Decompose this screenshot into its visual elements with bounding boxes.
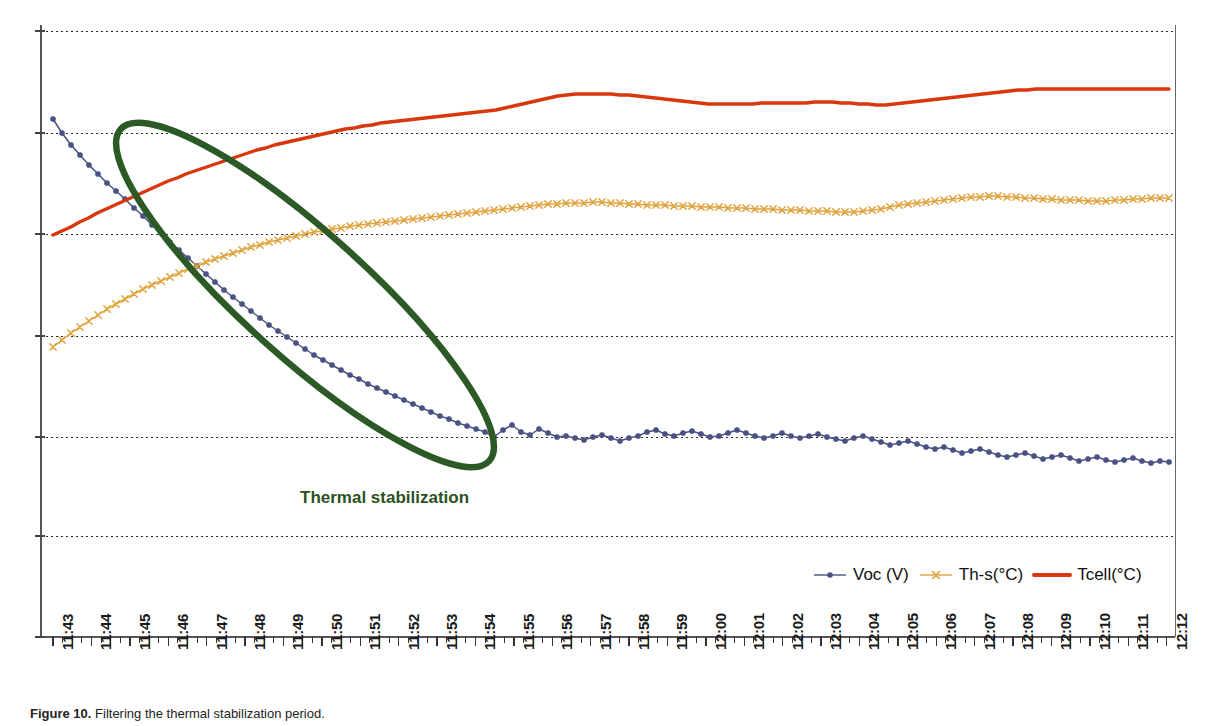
- legend-item-label: Tcell(°C): [1077, 565, 1141, 585]
- x-axis-tick-label: 11:43: [59, 614, 76, 650]
- legend-item[interactable]: Th-s(°C): [918, 565, 1023, 585]
- chart-axes: [41, 25, 1175, 637]
- x-axis-tick-label: 11:45: [136, 614, 153, 650]
- x-axis-tick-label: 12:04: [865, 613, 882, 650]
- figure-caption: Figure 10. Filtering the thermal stabili…: [30, 706, 325, 721]
- figure-container: 11:4311:4411:4511:4611:4711:4811:4911:50…: [0, 0, 1211, 726]
- data-series: [50, 89, 1172, 466]
- x-axis-tick-label: 12:02: [789, 613, 806, 650]
- x-axis-tick-label: 12:10: [1096, 613, 1113, 650]
- legend-item[interactable]: Tcell(°C): [1032, 565, 1141, 585]
- dot-marker-icon: [812, 568, 848, 582]
- legend-item[interactable]: Voc (V): [812, 565, 909, 585]
- x-axis-tick-label: 11:53: [443, 614, 460, 650]
- x-axis-tick-label: 12:08: [1019, 613, 1036, 650]
- x-axis-tick-label: 11:58: [635, 614, 652, 650]
- x-axis-tick-label: 12:07: [981, 613, 998, 650]
- x-axis-tick-label: 11:47: [213, 614, 230, 650]
- x-axis-tick-label: 12:03: [827, 613, 844, 650]
- legend-item-label: Th-s(°C): [959, 565, 1023, 585]
- x-axis-tick-label: 12:12: [1173, 613, 1190, 650]
- line-marker-icon: [1032, 568, 1072, 582]
- x-axis-tick-label: 12:11: [1134, 614, 1151, 650]
- y-axis-ticks: [35, 31, 45, 637]
- x-axis-tick-label: 11:56: [558, 614, 575, 650]
- x-axis-tick-label: 11:54: [481, 614, 498, 650]
- thermal-stabilization-annotation: Thermal stabilization: [300, 488, 469, 508]
- x-axis-tick-label: 11:57: [597, 614, 614, 650]
- x-axis-tick-label: 12:06: [942, 613, 959, 650]
- x-axis-tick-label: 11:46: [174, 614, 191, 650]
- x-axis-tick-label: 11:50: [328, 614, 345, 650]
- figure-caption-label: Figure 10.: [30, 706, 91, 721]
- x-axis-tick-label: 12:00: [712, 613, 729, 650]
- figure-caption-text: Filtering the thermal stabilization peri…: [95, 706, 325, 721]
- x-axis-tick-label: 11:48: [251, 614, 268, 650]
- x-axis-tick-label: 11:51: [366, 614, 383, 650]
- x-axis-tick-label: 11:44: [97, 614, 114, 650]
- x-axis-tick-label: 12:09: [1057, 613, 1074, 650]
- x-axis-tick-label: 11:55: [520, 614, 537, 650]
- legend-item-label: Voc (V): [853, 565, 909, 585]
- x-axis-tick-label: 12:05: [904, 613, 921, 650]
- x-axis-tick-label: 11:52: [405, 614, 422, 650]
- x-axis-tick-label: 11:49: [289, 614, 306, 650]
- cross-marker-icon: [918, 568, 954, 582]
- highlight-ellipse: [79, 83, 531, 507]
- x-axis-tick-label: 11:59: [673, 614, 690, 650]
- x-axis-tick-label: 12:01: [750, 613, 767, 650]
- chart-legend: Voc (V)Th-s(°C)Tcell(°C): [812, 565, 1142, 585]
- gridlines: [41, 31, 1175, 637]
